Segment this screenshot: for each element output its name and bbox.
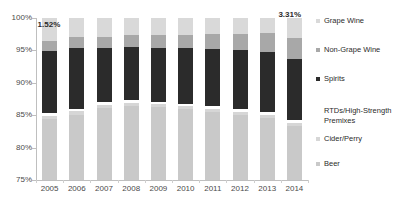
x-axis-tick-label: 2011: [199, 184, 227, 193]
legend-item-label: Cider/Perry: [324, 134, 362, 144]
legend-item-label: Grape Wine: [324, 16, 364, 26]
bar-segment: [124, 106, 139, 180]
x-axis-tick-mark: [172, 180, 173, 183]
x-axis-tick-label: 2008: [117, 184, 145, 193]
y-axis-tick-label: 75%: [2, 176, 32, 184]
bar-segment: [260, 115, 275, 118]
bar-segment: [287, 126, 302, 180]
bar-segment: [233, 109, 248, 112]
x-axis-tick-label: 2010: [172, 184, 200, 193]
x-axis-tick-label: 2006: [63, 184, 91, 193]
bar-segment: [205, 112, 220, 180]
bar-2014: [287, 18, 302, 180]
legend-item[interactable]: Grape Wine: [316, 16, 402, 26]
bar-segment: [205, 49, 220, 106]
legend-swatch-icon: [316, 19, 320, 23]
x-axis-tick-mark: [308, 180, 309, 183]
legend-item[interactable]: Beer: [316, 159, 402, 169]
stacked-bar-chart: 100%95%90%85%80%75% 20052006200720082009…: [0, 0, 402, 207]
legend-item-label: Beer: [324, 159, 340, 169]
bar-segment: [124, 100, 139, 103]
bar-segment: [233, 112, 248, 115]
y-axis-tick-label: 95%: [2, 46, 32, 54]
bar-segment: [260, 112, 275, 115]
bar-segment: [205, 34, 220, 49]
bar-segment: [151, 104, 166, 107]
y-axis-tick-label: 100%: [2, 14, 32, 22]
bar-segment: [260, 52, 275, 112]
legend-swatch-icon: [316, 109, 320, 113]
bar-segment: [233, 50, 248, 109]
bar-segment: [287, 18, 302, 38]
bar-segment: [287, 59, 302, 120]
bar-segment: [151, 48, 166, 102]
bar-segment: [97, 105, 112, 108]
bar-2007: [97, 18, 112, 180]
legend-item[interactable]: RTDs/High-Strength Premixes: [316, 106, 402, 126]
bar-2008: [124, 18, 139, 180]
bar-segment: [69, 111, 84, 114]
legend-swatch-icon: [316, 137, 320, 141]
bar-segment: [42, 116, 57, 119]
x-axis-tick-label: 2013: [253, 184, 281, 193]
bar-segment: [97, 18, 112, 37]
bar-segment: [205, 109, 220, 112]
x-axis-tick-mark: [281, 180, 282, 183]
bar-segment: [287, 38, 302, 59]
bar-segment: [178, 35, 193, 49]
x-axis-tick-label: 2009: [144, 184, 172, 193]
y-axis-tick-mark: [32, 115, 36, 116]
y-axis-tick-label: 90%: [2, 79, 32, 87]
x-axis-tick-label: 2014: [280, 184, 308, 193]
bar-segment: [260, 118, 275, 180]
bar-segment: [151, 102, 166, 105]
bar-segment: [69, 48, 84, 109]
x-axis-tick-label: 2012: [226, 184, 254, 193]
bar-segment: [178, 106, 193, 109]
x-axis-tick-mark: [226, 180, 227, 183]
legend-item-label: RTDs/High-Strength Premixes: [324, 106, 402, 126]
bar-segment: [124, 18, 139, 35]
y-axis-tick-label: 80%: [2, 144, 32, 152]
bar-segment: [97, 102, 112, 105]
bar-segment: [97, 108, 112, 180]
legend-swatch-icon: [316, 162, 320, 166]
x-axis-tick-mark: [118, 180, 119, 183]
bar-segment: [287, 120, 302, 123]
y-axis-tick-mark: [32, 83, 36, 84]
legend-item[interactable]: Non-Grape Wine: [316, 45, 402, 55]
x-axis-tick-mark: [36, 180, 37, 183]
bar-segment: [42, 41, 57, 51]
bar-segment: [69, 109, 84, 112]
bar-2009: [151, 18, 166, 180]
bar-2012: [233, 18, 248, 180]
bar-2010: [178, 18, 193, 180]
bar-segment: [260, 33, 275, 52]
bar-segment: [42, 119, 57, 180]
legend-item[interactable]: Cider/Perry: [316, 134, 402, 144]
bar-segment: [124, 35, 139, 47]
legend-swatch-icon: [316, 77, 320, 81]
legend-item[interactable]: Spirits: [316, 74, 402, 84]
bar-2005: [42, 18, 57, 180]
bar-segment: [69, 18, 84, 37]
bar-segment: [69, 115, 84, 180]
value-annotation: 3.31%: [278, 10, 301, 19]
bar-segment: [233, 34, 248, 51]
bar-segment: [233, 115, 248, 180]
y-axis-tick-mark: [32, 180, 36, 181]
bar-segment: [42, 51, 57, 113]
x-axis-tick-label: 2007: [90, 184, 118, 193]
bar-segment: [205, 18, 220, 34]
value-annotation: 1.52%: [38, 20, 61, 29]
bar-segment: [42, 113, 57, 116]
x-axis-tick-mark: [254, 180, 255, 183]
bar-segment: [205, 106, 220, 109]
x-axis-tick-mark: [199, 180, 200, 183]
bar-segment: [233, 18, 248, 34]
legend-item-label: Non-Grape Wine: [324, 45, 380, 55]
y-axis-tick-label: 85%: [2, 111, 32, 119]
bar-segment: [260, 18, 275, 33]
bar-segment: [287, 123, 302, 126]
x-axis-tick-label: 2005: [36, 184, 64, 193]
